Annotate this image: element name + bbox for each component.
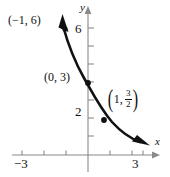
point-dot-1-1point5 [101,117,107,123]
point-label-x-part: 1, [114,93,123,105]
y-tick-label-6: 6 [75,22,82,35]
paren-close: ) [132,89,137,109]
point-label-0-3: (0, 3) [44,71,70,83]
x-tick-label-3: 3 [132,157,139,170]
point-label-1-three-halves: ( 1, 3 2 ) [106,89,139,109]
paren-open: ( [108,89,113,109]
fraction-numerator: 3 [125,89,132,98]
point-dot-0-3 [85,80,91,86]
fraction-three-halves: 3 2 [125,89,132,109]
fraction-denominator: 2 [125,100,132,109]
y-axis-label: y [80,2,85,13]
point-label-neg1-6: (−1, 6) [8,14,41,26]
x-axis-ticks [22,151,143,156]
exponential-curve [63,26,140,142]
x-tick-label-neg3: −3 [14,157,28,170]
graph-figure: (−1, 6) (0, 3) ( 1, 3 2 ) 6 2 −3 3 y x [0,0,170,177]
y-axis-arrowhead [85,6,92,14]
curve-arrowhead-right [132,135,150,146]
x-axis-arrowhead [152,151,160,158]
x-axis-label: x [155,136,160,147]
point-dot-neg1-6 [62,26,67,31]
y-tick-label-2: 2 [75,105,82,118]
